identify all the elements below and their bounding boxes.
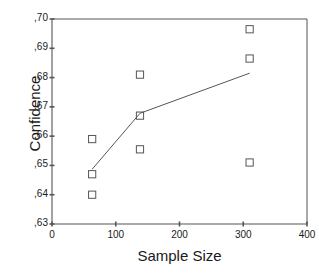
x-tick-label: 400 <box>287 229 319 240</box>
data-point-marker <box>89 171 96 178</box>
scatter-chart: ,63,64,65,66,67,68,69,70 0100200300400 C… <box>0 0 319 273</box>
data-point-marker <box>89 191 96 198</box>
data-point-marker <box>246 26 253 33</box>
y-tick-label: ,70 <box>20 12 48 23</box>
data-point-marker <box>89 135 96 142</box>
data-point-marker <box>136 71 143 78</box>
data-markers <box>89 26 254 199</box>
data-point-marker <box>246 55 253 62</box>
trend-line <box>92 73 249 169</box>
data-point-marker <box>246 159 253 166</box>
axes <box>52 19 307 224</box>
x-tick-label: 0 <box>32 229 72 240</box>
y-tick-label: ,63 <box>20 217 48 228</box>
data-point-marker <box>136 146 143 153</box>
x-tick-label: 200 <box>160 229 200 240</box>
y-axis-title: Confidence <box>26 34 43 194</box>
x-tick-label: 300 <box>223 229 263 240</box>
x-tick-label: 100 <box>96 229 136 240</box>
mean-trend-polyline <box>92 73 249 169</box>
x-axis-title: Sample Size <box>52 247 307 264</box>
